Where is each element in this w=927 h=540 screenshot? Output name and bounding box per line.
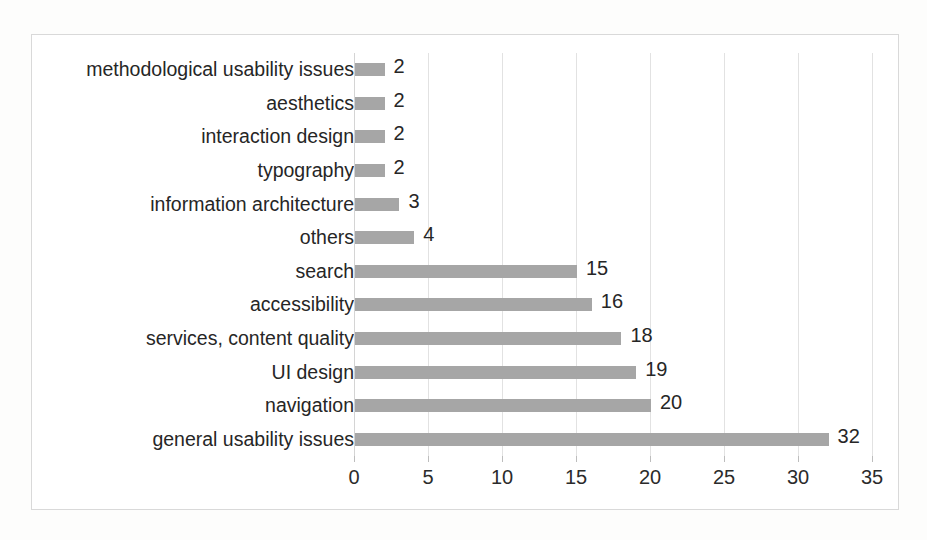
category-label: navigation	[24, 395, 354, 415]
value-axis-line	[354, 53, 355, 456]
bar	[355, 433, 829, 446]
category-label: others	[24, 227, 354, 247]
category-label: search	[24, 261, 354, 281]
value-axis-tick-label: 35	[842, 465, 902, 489]
bar-value-label: 20	[651, 396, 682, 409]
chart-page: methodological usability issuesaesthetic…	[0, 0, 927, 540]
gridline-10	[502, 53, 503, 456]
bar-value-label: 2	[385, 94, 405, 107]
gridline-30	[798, 53, 799, 456]
category-label: aesthetics	[24, 93, 354, 113]
bar	[355, 366, 636, 379]
tick-mark-20	[650, 456, 651, 462]
value-axis-tick-label: 25	[694, 465, 754, 489]
bar	[355, 164, 385, 177]
gridline-5	[428, 53, 429, 456]
bar	[355, 63, 385, 76]
value-axis-tick-label: 5	[398, 465, 458, 489]
category-label: general usability issues	[24, 429, 354, 449]
category-label: methodological usability issues	[24, 59, 354, 79]
bar	[355, 97, 385, 110]
bar-value-label: 16	[592, 295, 623, 308]
tick-mark-30	[798, 456, 799, 462]
category-label: UI design	[24, 362, 354, 382]
tick-mark-15	[576, 456, 577, 462]
category-axis-labels: methodological usability issuesaesthetic…	[18, 53, 354, 456]
chart-frame: methodological usability issuesaesthetic…	[31, 34, 899, 510]
bar-value-label: 18	[621, 329, 652, 342]
bar-value-label: 15	[577, 262, 608, 275]
plot-area: 222234151618192032 05101520253035	[354, 53, 872, 456]
tick-mark-25	[724, 456, 725, 462]
bar-value-label: 2	[385, 161, 405, 174]
bar	[355, 399, 651, 412]
value-axis-tick-label: 10	[472, 465, 532, 489]
bar	[355, 298, 592, 311]
tick-mark-5	[428, 456, 429, 462]
category-label: interaction design	[24, 126, 354, 146]
value-axis-tick-label: 20	[620, 465, 680, 489]
gridline-15	[576, 53, 577, 456]
bar	[355, 265, 577, 278]
gridline-25	[724, 53, 725, 456]
tick-mark-0	[354, 456, 355, 462]
value-axis-tick-label: 15	[546, 465, 606, 489]
bar-value-label: 4	[414, 228, 434, 241]
bar	[355, 198, 399, 211]
category-label: typography	[24, 160, 354, 180]
category-label: information architecture	[24, 194, 354, 214]
bar-value-label: 3	[399, 195, 419, 208]
gridline-35	[872, 53, 873, 456]
bar	[355, 130, 385, 143]
bar-value-label: 2	[385, 60, 405, 73]
category-label: accessibility	[24, 294, 354, 314]
bar-value-label: 19	[636, 363, 667, 376]
bar	[355, 332, 621, 345]
bar	[355, 231, 414, 244]
value-axis-tick-label: 0	[324, 465, 384, 489]
tick-mark-10	[502, 456, 503, 462]
bar-value-label: 2	[385, 127, 405, 140]
bar-value-label: 32	[829, 430, 860, 443]
value-axis-tick-label: 30	[768, 465, 828, 489]
tick-mark-35	[872, 456, 873, 462]
category-label: services, content quality	[24, 328, 354, 348]
